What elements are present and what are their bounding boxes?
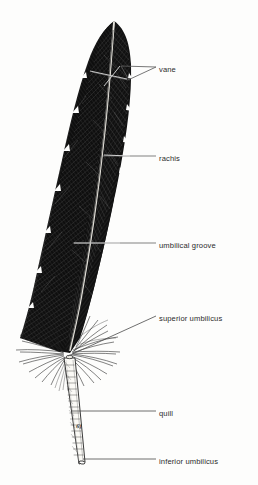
label-umbilical-groove: umbilical groove — [159, 242, 216, 250]
superior-umbilicus-opening — [66, 355, 73, 358]
artist-mark: 61 — [76, 423, 83, 430]
label-inferior-umbilicus: inferior umbilicus — [159, 458, 218, 466]
label-superior-umbilicus: superior umbilicus — [159, 315, 222, 323]
feather-illustration: 61 — [0, 0, 258, 485]
quill-calamus — [64, 355, 85, 464]
label-quill: quill — [159, 410, 173, 418]
feather-anatomy-figure: 61 — [0, 0, 258, 485]
label-rachis: rachis — [159, 155, 180, 163]
label-vane: vane — [159, 66, 176, 74]
vane-shape — [10, 15, 150, 365]
